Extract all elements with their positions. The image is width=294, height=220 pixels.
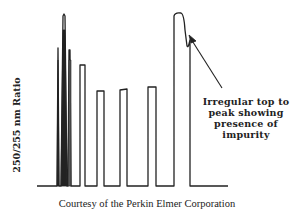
- annotation-line-2: peak showing: [196, 107, 294, 118]
- annotation-line-4: impurity: [196, 129, 294, 140]
- annotation-line-1: Irregular top to: [196, 96, 294, 107]
- ratio-chromatogram-figure: 250/255 nm Ratio Irregular top to peak s…: [0, 0, 294, 220]
- spike-cluster: [61, 30, 67, 186]
- annotation-line-3: presence of: [196, 118, 294, 129]
- y-axis-label: 250/255 nm Ratio: [11, 77, 22, 172]
- impurity-annotation: Irregular top to peak showing presence o…: [196, 96, 294, 140]
- annotation-arrow: [191, 39, 222, 88]
- figure-caption: Courtesy of the Perkin Elmer Corporation: [0, 198, 294, 209]
